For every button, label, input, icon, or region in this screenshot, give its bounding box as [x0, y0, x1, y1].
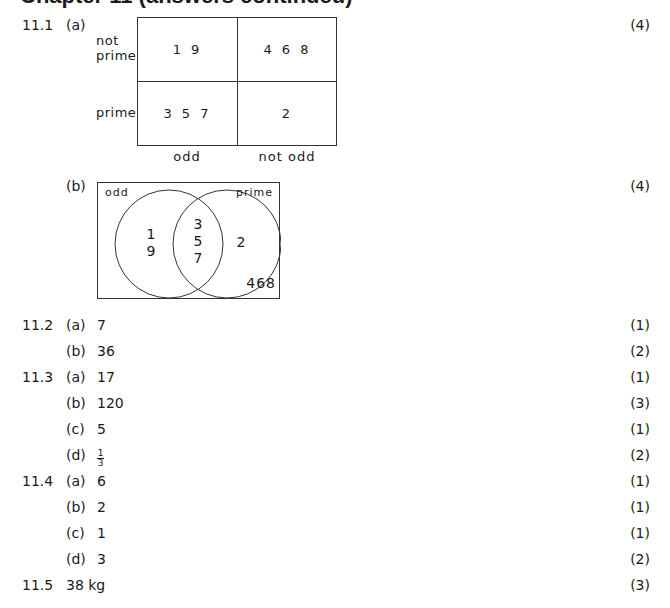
- part-label: (a): [66, 369, 86, 385]
- part-label: (d): [66, 551, 86, 567]
- answer: 38 kg: [66, 577, 105, 593]
- marks: (2): [630, 551, 650, 567]
- marks: (2): [630, 343, 650, 359]
- prime-only-values: 2: [234, 234, 248, 251]
- marks: (1): [630, 525, 650, 541]
- question-number: 11.3: [22, 369, 53, 385]
- answer: 17: [97, 369, 115, 385]
- page-heading: Chapter 11 (answers continued): [20, 0, 353, 9]
- part-label: (a): [66, 473, 86, 489]
- marks: (2): [630, 447, 650, 463]
- question-number: 11.4: [22, 473, 53, 489]
- answer: 6: [97, 473, 106, 489]
- part-label: (b): [66, 343, 86, 359]
- part-label: (b): [66, 499, 86, 515]
- marks: (1): [630, 499, 650, 515]
- table-cell: 2: [238, 82, 337, 145]
- answer: 2: [97, 499, 106, 515]
- marks: (3): [630, 577, 650, 593]
- answer-fraction: 1 3: [97, 443, 104, 468]
- marks: (4): [630, 17, 650, 33]
- venn-diagram: odd prime 1 9 3 5 7 2 468: [97, 182, 280, 299]
- intersection-values: 3 5 7: [191, 216, 205, 267]
- marks: (4): [630, 178, 650, 194]
- marks: (1): [630, 421, 650, 437]
- table-cell: 4 6 8: [238, 18, 337, 81]
- question-number: 11.5: [22, 577, 53, 593]
- part-label: (b): [66, 178, 86, 194]
- set-label-prime: prime: [236, 186, 273, 199]
- answer: 120: [97, 395, 124, 411]
- answer: 5: [97, 421, 106, 437]
- two-way-table: 1 9 4 6 8 3 5 7 2: [137, 17, 337, 146]
- marks: (3): [630, 395, 650, 411]
- question-number: 11.2: [22, 317, 53, 333]
- marks: (1): [630, 369, 650, 385]
- answer: 1: [97, 525, 106, 541]
- set-label-odd: odd: [105, 186, 129, 199]
- part-label: (a): [66, 317, 86, 333]
- odd-only-values: 1 9: [144, 226, 158, 260]
- row-label-not-prime: not prime: [96, 33, 136, 63]
- part-label: (c): [66, 525, 85, 541]
- answer: 3: [97, 551, 106, 567]
- column-label-odd: odd: [137, 149, 237, 164]
- row-label-prime: prime: [96, 105, 136, 120]
- column-label-not-odd: not odd: [237, 149, 337, 164]
- marks: (1): [630, 473, 650, 489]
- part-label: (a): [66, 17, 86, 33]
- marks: (1): [630, 317, 650, 333]
- part-label: (d): [66, 447, 86, 463]
- table-cell: 3 5 7: [138, 82, 237, 145]
- answer: 7: [97, 317, 106, 333]
- answer: 36: [97, 343, 115, 359]
- question-number: 11.1: [22, 17, 53, 33]
- part-label: (c): [66, 421, 85, 437]
- part-label: (b): [66, 395, 86, 411]
- table-cell: 1 9: [138, 18, 237, 81]
- outside-values: 468: [246, 275, 276, 292]
